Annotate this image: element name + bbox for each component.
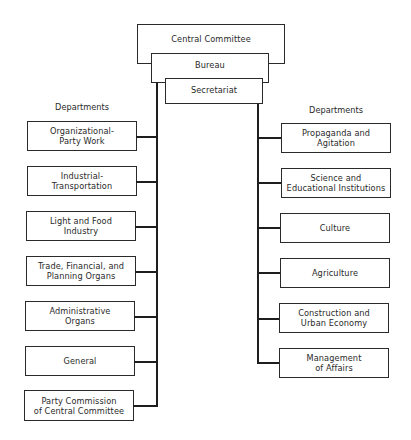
dept-label-line2: Organs [50, 316, 111, 326]
left-dept-box: Trade, Financial, andPlanning Organs [26, 256, 136, 286]
right-connector [257, 227, 280, 229]
right-connector [257, 318, 279, 320]
right-dept-box: Culture [280, 213, 390, 243]
dept-label-line2: Educational Institutions [287, 183, 386, 193]
left-dept-box: AdministrativeOrgans [25, 301, 135, 331]
dept-label-line2: Urban Economy [298, 318, 370, 328]
secretariat-box: Secretariat [165, 78, 263, 104]
dept-label-line1: Management [307, 353, 362, 363]
right-dept-box: Construction andUrban Economy [279, 303, 389, 333]
right-departments-heading: Departments [281, 105, 391, 115]
left-departments-heading: Departments [27, 102, 137, 112]
dept-label-line1: Agriculture [312, 268, 358, 278]
right-dept-box: Agriculture [280, 258, 390, 288]
left-connector [133, 405, 158, 407]
dept-label-line2: Party Work [50, 136, 114, 146]
left-trunk-line [156, 82, 158, 407]
right-connector [257, 137, 281, 139]
left-dept-box: Organizational-Party Work [27, 121, 137, 151]
right-connector [257, 272, 280, 274]
left-dept-box: Party Commissionof Central Committee [24, 390, 134, 421]
dept-label-line1: Trade, Financial, and [38, 261, 124, 271]
left-connector [136, 181, 157, 183]
dept-label-line1: Organizational- [50, 126, 114, 136]
left-connector [135, 226, 157, 228]
left-connector [136, 136, 157, 138]
dept-label-line1: Party Commission [34, 396, 124, 406]
secretariat-label: Secretariat [191, 85, 237, 95]
bureau-label: Bureau [195, 60, 225, 70]
left-connector [135, 271, 157, 273]
right-dept-box: Propaganda andAgitation [281, 123, 391, 153]
dept-label-line1: Culture [320, 223, 351, 233]
left-dept-box: Industrial-Transportation [27, 166, 137, 196]
right-dept-box: Science andEducational Institutions [281, 168, 391, 198]
dept-label-line1: Industrial- [52, 171, 113, 181]
dept-label-line1: Administrative [50, 306, 111, 316]
dept-label-line2: of Affairs [307, 363, 362, 373]
right-connector [257, 182, 281, 184]
dept-label-line2: Planning Organs [38, 271, 124, 281]
dept-label-line2: Industry [50, 226, 112, 236]
left-dept-box: Light and FoodIndustry [26, 211, 136, 241]
dept-label-line2: of Central Committee [34, 406, 124, 416]
dept-label-line2: Transportation [52, 181, 113, 191]
left-connector [134, 316, 157, 318]
dept-label-line2: Agitation [302, 138, 370, 148]
right-trunk-line [257, 82, 259, 364]
dept-label-line1: Propaganda and [302, 128, 370, 138]
central-committee-label: Central Committee [171, 34, 251, 44]
left-dept-box: General [25, 346, 135, 376]
dept-label-line1: Science and [287, 173, 386, 183]
dept-label-line1: Light and Food [50, 216, 112, 226]
right-dept-box: Managementof Affairs [279, 348, 389, 378]
left-connector [134, 361, 157, 363]
right-connector [257, 362, 279, 364]
dept-label-line1: Construction and [298, 308, 370, 318]
dept-label-line1: General [64, 356, 97, 366]
